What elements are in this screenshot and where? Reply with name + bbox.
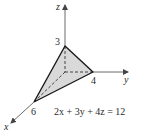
plane-equation: 2x + 3y + 4z = 12 [54,106,125,117]
x-axis-label: x [3,121,9,132]
plane-diagram: z y x 3 4 6 2x + 3y + 4z = 12 [0,0,141,135]
x-intercept-label: 6 [31,106,36,117]
y-intercept-label: 4 [91,75,96,86]
z-axis-label: z [55,1,60,12]
z-intercept-label: 3 [55,36,60,47]
y-axis-label: y [123,74,129,85]
